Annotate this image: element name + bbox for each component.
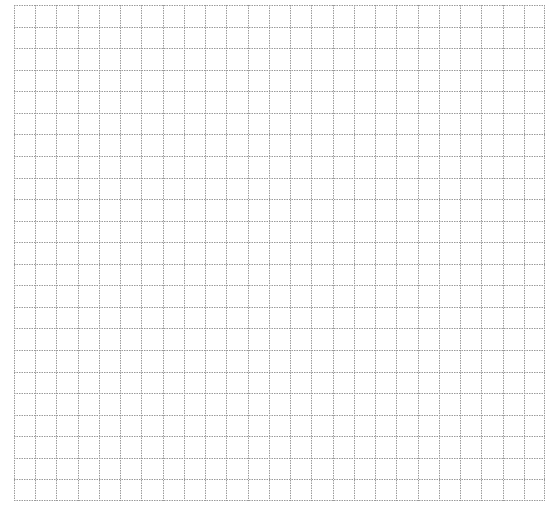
grid-lines	[14, 5, 545, 501]
graph-paper-grid	[14, 5, 545, 501]
